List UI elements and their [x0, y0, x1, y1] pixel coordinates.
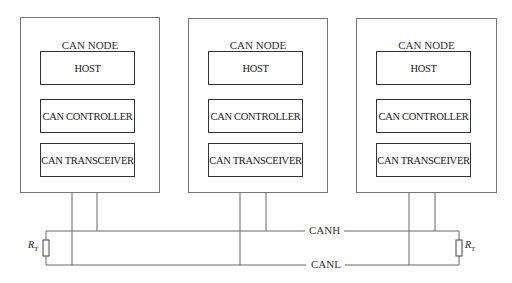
terminator-resistor-left — [43, 240, 49, 256]
can-transceiver-block: CAN TRANSCEIVER — [376, 143, 471, 177]
host-block: HOST — [376, 51, 471, 85]
can-transceiver-block: CAN TRANSCEIVER — [208, 143, 303, 177]
node-title: CAN NODE — [189, 39, 327, 51]
can-controller-block: CAN CONTROLLER — [376, 99, 471, 133]
can-node-2: CAN NODE HOST CAN CONTROLLER CAN TRANSCE… — [188, 18, 328, 193]
rt-subscript: T — [34, 245, 38, 253]
can-node-3: CAN NODE HOST CAN CONTROLLER CAN TRANSCE… — [356, 18, 497, 193]
terminator-label-right: RT — [465, 239, 475, 253]
rt-subscript: T — [471, 245, 475, 253]
can-transceiver-block: CAN TRANSCEIVER — [40, 143, 135, 177]
node-title: CAN NODE — [21, 39, 159, 51]
can-controller-block: CAN CONTROLLER — [40, 99, 135, 133]
canl-label: CANL — [307, 258, 345, 270]
canh-label: CANH — [305, 224, 344, 236]
terminator-label-left: RT — [28, 239, 38, 253]
can-node-1: CAN NODE HOST CAN CONTROLLER CAN TRANSCE… — [20, 17, 160, 193]
node-title: CAN NODE — [357, 39, 496, 51]
host-block: HOST — [208, 51, 303, 85]
can-controller-block: CAN CONTROLLER — [208, 99, 303, 133]
host-block: HOST — [40, 51, 135, 85]
terminator-resistor-right — [456, 240, 462, 256]
